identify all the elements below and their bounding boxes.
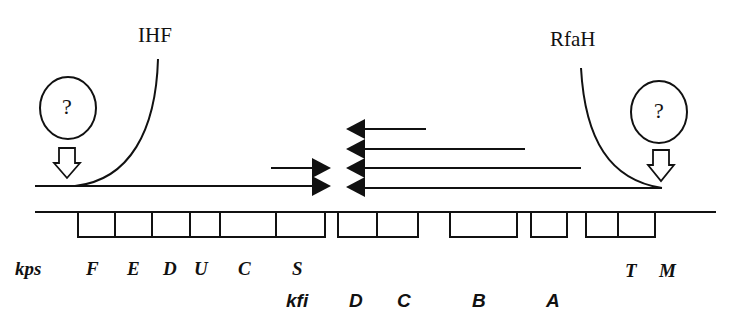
gene-label-kpsM: M xyxy=(659,261,676,280)
left-arrowhead-icon-2 xyxy=(346,139,365,159)
kfi-gene-boxes xyxy=(338,212,567,237)
ihf-label: IHF xyxy=(138,25,172,46)
rfah-label: RfaH xyxy=(550,29,596,50)
left-arrowhead-icon-4 xyxy=(346,177,365,197)
kps-operon-label: kps xyxy=(15,259,41,278)
gene-label-kpsC: C xyxy=(238,259,251,278)
kfi-operon-label: kfi xyxy=(286,291,308,310)
gene-label-kpsU: U xyxy=(194,259,208,278)
gene-label-kfiC: C xyxy=(397,291,411,310)
kps-gene-boxes xyxy=(78,212,325,237)
ihf-curve xyxy=(75,59,158,186)
gene-label-kpsE: E xyxy=(127,259,140,278)
gene-label-kpsT: T xyxy=(625,261,637,280)
left-arrowhead-icon-1 xyxy=(346,119,365,139)
rfah-curve xyxy=(581,68,662,188)
gene-cluster-diagram: IHF RfaH ? ? kps F E D U C S T M kfi D C… xyxy=(0,0,744,326)
gene-label-kpsS: S xyxy=(292,259,303,278)
gene-label-kfiA: A xyxy=(546,291,560,310)
gene-label-kfiB: B xyxy=(472,291,486,310)
down-arrow-icon-left xyxy=(54,148,80,178)
left-arrowhead-icon-3 xyxy=(346,158,365,178)
unknown-factor-right: ? xyxy=(654,100,664,122)
gene-label-kpsD: D xyxy=(163,259,177,278)
right-arrowhead-icon-1 xyxy=(312,158,331,178)
kps-tm-gene-boxes xyxy=(586,212,655,237)
down-arrow-icon-right xyxy=(648,150,674,181)
gene-label-kpsF: F xyxy=(86,259,99,278)
unknown-factor-left: ? xyxy=(62,96,72,118)
gene-label-kfiD: D xyxy=(349,291,363,310)
right-arrowhead-icon-2 xyxy=(312,176,331,196)
